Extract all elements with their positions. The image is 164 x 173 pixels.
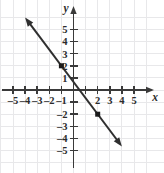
x-tick-label: –3 [31, 95, 43, 106]
y-axis-label: y [61, 2, 69, 15]
y-tick-label: –5 [56, 145, 68, 156]
data-point-marker [59, 63, 64, 68]
x-tick-label: –2 [43, 95, 55, 106]
x-tick-label: 4 [119, 95, 125, 106]
y-tick-label: –4 [56, 133, 68, 144]
y-tick-label: 5 [62, 24, 67, 35]
x-axis-label: x [151, 91, 158, 103]
x-tick-label: 5 [131, 95, 136, 106]
x-tick-label: 3 [107, 95, 112, 106]
x-tick-label: –4 [19, 95, 31, 106]
y-tick-label: 3 [62, 49, 67, 60]
y-tick-label: –3 [56, 121, 68, 132]
coordinate-graph-figure: –5–4–3–2–1234554321–2–3–4–5 x y [0, 0, 164, 173]
x-tick-label: –5 [7, 95, 19, 106]
data-point-marker [95, 112, 100, 117]
y-axis-arrow-icon [70, 6, 76, 14]
x-tick-label: 2 [95, 95, 100, 106]
coordinate-plane: –5–4–3–2–1234554321–2–3–4–5 x y [0, 0, 164, 173]
y-tick-label: –2 [56, 109, 68, 120]
y-tick-label: 4 [62, 36, 68, 47]
x-tick-label: –1 [55, 95, 67, 106]
